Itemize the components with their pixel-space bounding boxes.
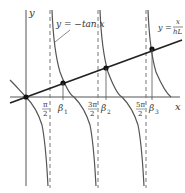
tick-label-beta2-sub: 2	[107, 108, 111, 115]
line-label-prefix: y =	[157, 23, 172, 32]
tick-label-5pi-2-num: 5π	[136, 101, 145, 109]
y-axis-label: y	[28, 7, 35, 18]
tick-label-beta2: β	[100, 103, 106, 113]
tick-label-pi-2-den: 2	[43, 110, 47, 118]
tick-label-pi-2-num: π	[43, 101, 48, 109]
tick-label-beta3-sub: 3	[155, 108, 159, 115]
curve-label: y = −tan x	[55, 19, 105, 29]
tick-label-5pi-2-den: 2	[138, 110, 142, 118]
tan-intersection-diagram: y x y = −tan x y = x hL π 2 β 1 3π 2 β 2…	[0, 0, 185, 193]
tick-label-3pi-2-num: 3π	[88, 101, 97, 109]
point-origin	[23, 94, 28, 99]
line-label-numerator: x	[176, 18, 180, 26]
tick-label-beta3: β	[148, 103, 154, 113]
tick-label-beta1: β	[57, 103, 63, 113]
tick-label-3pi-2-den: 2	[90, 110, 94, 118]
tan-branch-1	[52, 10, 96, 186]
curve-label-leader	[55, 30, 70, 42]
tan-branch-2	[100, 10, 144, 186]
tick-label-beta1-sub: 1	[64, 108, 68, 115]
line-label-denominator: hL	[173, 28, 183, 36]
x-axis-label: x	[175, 101, 181, 112]
